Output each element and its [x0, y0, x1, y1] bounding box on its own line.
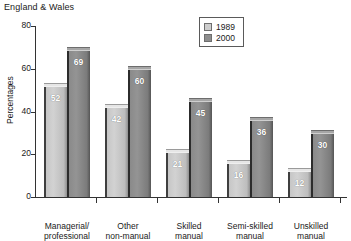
bar-value-label: 30	[311, 140, 334, 150]
bar-1989-managerial-professional: 52	[44, 86, 67, 197]
y-axis-title: Percentages	[5, 68, 15, 132]
x-category-label-managerial-professional: Managerial/ professional	[33, 221, 101, 241]
bar-value-label: 16	[227, 170, 250, 180]
bar-2000-skilled-manual: 45	[189, 101, 212, 197]
bar-value-label: 36	[250, 127, 273, 137]
bar-value-label: 52	[44, 93, 67, 103]
legend-item-1989: 1989	[204, 21, 235, 32]
bar-value-label: 45	[189, 108, 212, 118]
x-category-label-other-non-manual: Other non-manual	[94, 221, 162, 241]
legend-label-1989: 1989	[216, 22, 235, 32]
chart-title: England & Wales	[4, 2, 74, 12]
x-category-label-semi-skilled-manual: Semi-skilled manual	[216, 221, 284, 241]
legend-swatch-icon-2000	[204, 34, 212, 42]
x-tick-3	[218, 198, 219, 203]
bar-value-label: 12	[288, 178, 311, 188]
bar-value-label: 21	[166, 159, 189, 169]
x-tick-2	[157, 198, 158, 203]
legend-label-2000: 2000	[216, 33, 235, 43]
y-tick-label-60: 60	[22, 63, 31, 73]
plot-area: 80 60 40 20 0 52	[35, 20, 347, 197]
x-tick-1	[96, 198, 97, 203]
bar-1989-skilled-manual: 21	[166, 152, 189, 197]
bar-2000-other-non-manual: 60	[128, 69, 151, 197]
x-category-label-unskilled-manual: Unskilled manual	[277, 221, 345, 241]
bar-value-label: 42	[105, 114, 128, 124]
bar-1989-other-non-manual: 42	[105, 107, 128, 197]
bar-face	[67, 50, 90, 198]
y-tick-label-20: 20	[22, 148, 31, 158]
bar-chart: England & Wales Percentages 80 60 40 20 …	[0, 0, 351, 241]
bar-2000-managerial-professional: 69	[67, 50, 90, 198]
y-tick-label-40: 40	[22, 106, 31, 116]
x-category-label-skilled-manual: Skilled manual	[155, 221, 223, 241]
bar-1989-semi-skilled-manual: 16	[227, 163, 250, 197]
x-axis-line	[35, 197, 347, 198]
x-tick-5	[340, 198, 341, 203]
bar-1989-unskilled-manual: 12	[288, 171, 311, 197]
bar-2000-unskilled-manual: 30	[311, 133, 334, 197]
legend-swatch-icon-1989	[204, 23, 212, 31]
bar-2000-semi-skilled-manual: 36	[250, 120, 273, 197]
bar-face	[227, 163, 250, 197]
legend: 1989 2000	[199, 17, 244, 47]
bar-value-label: 60	[128, 76, 151, 86]
legend-item-2000: 2000	[204, 32, 235, 43]
bar-face	[128, 69, 151, 197]
y-tick-label-0: 0	[26, 191, 31, 201]
bar-value-label: 69	[67, 57, 90, 67]
y-tick-label-80: 80	[22, 20, 31, 30]
x-tick-4	[279, 198, 280, 203]
